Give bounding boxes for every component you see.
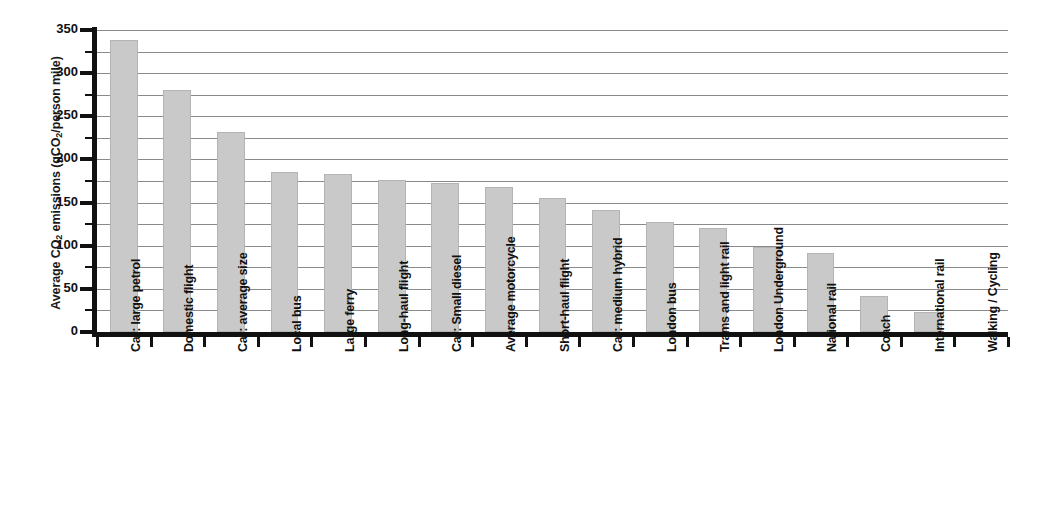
x-category-label: Large ferry — [343, 289, 357, 352]
y-tick-label: 0 — [22, 323, 78, 338]
x-category-label: London Underground — [772, 227, 786, 352]
x-category-label: Coach — [879, 315, 893, 352]
x-category-label: Local bus — [290, 295, 304, 352]
x-tick — [471, 337, 474, 347]
y-tick-label: 350 — [22, 21, 78, 36]
x-tick — [739, 337, 742, 347]
y-tick-minor — [85, 94, 97, 96]
x-tick — [310, 337, 313, 347]
y-axis-title-sub2: 2 — [54, 133, 64, 138]
x-tick — [846, 337, 849, 347]
x-category-label: Domestic flight — [182, 265, 196, 352]
x-category-label: Long-haul flight — [397, 261, 411, 352]
gridline — [97, 73, 1008, 74]
y-tick-major — [80, 28, 97, 32]
x-tick — [257, 337, 260, 347]
x-axis-spine — [92, 332, 1008, 337]
x-category-label: Car: medium hybrid — [611, 238, 625, 352]
y-tick-label: 150 — [22, 194, 78, 209]
gridline — [97, 95, 1008, 96]
x-category-label: Car: average size — [236, 253, 250, 352]
x-tick — [632, 337, 635, 347]
x-tick — [418, 337, 421, 347]
gridline — [97, 116, 1008, 117]
x-category-label: London bus — [665, 282, 679, 352]
x-category-label: National rail — [825, 283, 839, 352]
y-tick-minor — [85, 309, 97, 311]
x-tick — [900, 337, 903, 347]
y-tick-major — [80, 330, 97, 334]
x-tick — [96, 337, 99, 347]
y-tick-label: 200 — [22, 150, 78, 165]
x-tick — [150, 337, 153, 347]
plot-area — [97, 30, 1008, 332]
y-tick-label: 50 — [22, 280, 78, 295]
y-tick-major — [80, 71, 97, 75]
y-tick-minor — [85, 223, 97, 225]
y-tick-major — [80, 157, 97, 161]
y-tick-label: 100 — [22, 237, 78, 252]
y-tick-minor — [85, 137, 97, 139]
x-category-label: Walking / Cycling — [986, 252, 1000, 352]
y-tick-major — [80, 201, 97, 205]
y-tick-label: 300 — [22, 64, 78, 79]
x-category-label: Average motorcycle — [504, 237, 518, 352]
emissions-bar-chart: Average CO2 emissions (gCO2/person mile)… — [0, 0, 1040, 505]
y-tick-minor — [85, 51, 97, 53]
x-category-label: Short-haul flight — [558, 259, 572, 352]
x-tick — [578, 337, 581, 347]
x-category-label: Car: large petrol — [129, 259, 143, 352]
x-category-label: International rail — [933, 258, 947, 352]
x-tick — [1007, 337, 1010, 347]
x-tick — [364, 337, 367, 347]
y-tick-minor — [85, 180, 97, 182]
x-tick — [525, 337, 528, 347]
x-tick — [686, 337, 689, 347]
x-category-label: Car: Small diesel — [450, 255, 464, 352]
gridline — [97, 30, 1008, 31]
x-tick — [203, 337, 206, 347]
y-tick-minor — [85, 266, 97, 268]
y-tick-major — [80, 244, 97, 248]
gridline — [97, 52, 1008, 53]
y-tick-major — [80, 114, 97, 118]
y-tick-label: 250 — [22, 107, 78, 122]
y-tick-major — [80, 287, 97, 291]
x-tick — [793, 337, 796, 347]
x-tick — [953, 337, 956, 347]
x-category-label: Trams and light rail — [718, 241, 732, 352]
